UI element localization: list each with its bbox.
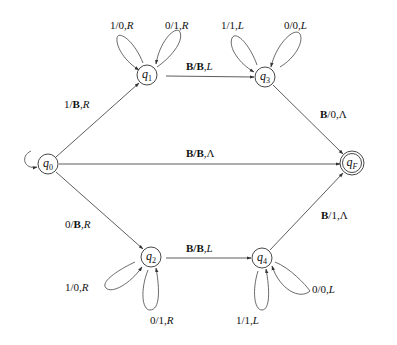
label-move: L [238, 19, 244, 31]
label-move: R [82, 281, 89, 293]
label-read: 0/ [65, 218, 74, 230]
node-q0-sub: 0 [49, 163, 53, 172]
node-qF-sub: F [353, 162, 358, 171]
edge-q1-q3 [166, 76, 254, 77]
label-text: 1/0, [65, 281, 82, 293]
loop-label-q4-b: 0/0,L [312, 284, 335, 295]
label-text: 1/1, [221, 19, 238, 31]
label-text: 0/0, [284, 19, 301, 31]
label-move: R [83, 98, 90, 110]
label-move: L [207, 242, 213, 254]
loop-label-q3-a: 1/1,L [221, 20, 244, 31]
node-q4-label: q4 [257, 251, 267, 266]
loop-q4-a [255, 269, 269, 310]
edge-label-q0-q2: 0/B,R [65, 219, 90, 230]
node-q3-sub: 3 [266, 76, 270, 85]
label-move: Λ [207, 147, 215, 159]
node-q4-sub: 4 [263, 257, 267, 266]
loop-label-q1-b: 0/1,R [165, 20, 189, 31]
edge-label-q1-q3: B/B,L [186, 61, 213, 72]
label-read: 1/ [64, 98, 73, 110]
label-move: R [167, 314, 174, 326]
label-write: B [196, 60, 203, 72]
loop-label-q3-b: 0/0,L [284, 20, 307, 31]
label-text: 0/1, [165, 19, 182, 31]
loop-q2-a [105, 262, 142, 290]
node-q0-label: q0 [43, 157, 53, 172]
loop-label-q1-a: 1/0,R [110, 20, 134, 31]
node-q3-label: q3 [260, 70, 270, 85]
edge-label-q4-qF: B/1,Λ [321, 210, 348, 221]
edge-q0-q1 [56, 83, 139, 157]
label-text: 0/1, [150, 314, 167, 326]
label-move: L [329, 283, 335, 295]
label-text: 1/0, [110, 19, 127, 31]
loop-q1-a [117, 35, 143, 70]
label-text: 0/0, [312, 283, 329, 295]
label-rest: /1,Λ [328, 209, 347, 221]
node-q1-sub: 1 [148, 74, 152, 83]
node-q2-label: q2 [146, 250, 156, 265]
node-q2-sub: 2 [152, 256, 156, 265]
node-qF-label: qF [347, 156, 358, 171]
label-rest: /0,Λ [327, 108, 346, 120]
node-q1-label: q1 [142, 68, 152, 83]
loop-label-q4-a: 1/1,L [236, 315, 259, 326]
label-text: 1/1, [236, 314, 253, 326]
loop-label-q2-a: 1/0,R [65, 282, 89, 293]
label-write: B [73, 98, 80, 110]
label-write: B [196, 242, 203, 254]
label-write: B [196, 147, 203, 159]
loop-q3-a [231, 36, 257, 72]
edge-label-q0-q1: 1/B,R [64, 99, 89, 110]
edge-label-q0-qF: B/B,Λ [186, 148, 214, 159]
label-move: R [127, 19, 134, 31]
edge-label-q3-qF: B/0,Λ [320, 109, 347, 120]
loop-q4-b [272, 262, 310, 294]
loop-q2-b [143, 268, 159, 310]
label-move: L [207, 60, 213, 72]
loop-q1-b [156, 30, 181, 67]
label-write: B [74, 218, 81, 230]
loop-label-q2-b: 0/1,R [150, 315, 174, 326]
edge-q0-q2 [56, 172, 143, 249]
label-move: R [182, 19, 189, 31]
edge-label-q2-q4: B/B,L [186, 243, 213, 254]
initial-arrow [25, 151, 37, 167]
label-move: R [84, 218, 91, 230]
state-diagram-canvas [0, 0, 397, 345]
loop-q3-b [271, 32, 301, 67]
label-move: L [253, 314, 259, 326]
label-move: L [301, 19, 307, 31]
